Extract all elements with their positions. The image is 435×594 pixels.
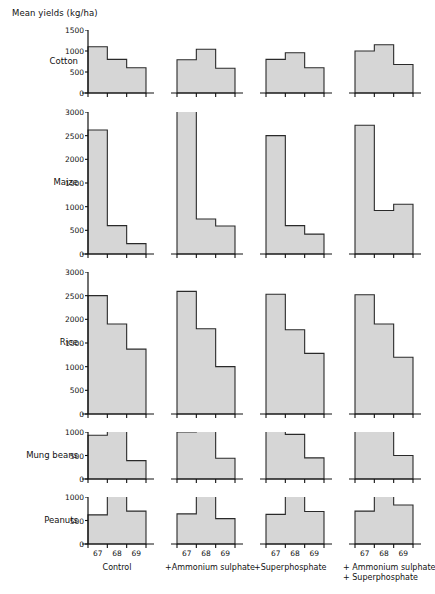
panel-maize-superphosphate [258,112,334,266]
x-tick-label-67: 67 [182,549,192,558]
y-axis-peanuts: 05001000 [50,497,84,544]
panel-cotton-superphosphate [258,30,334,105]
treatment-label-line: + Superphosphate [343,573,435,583]
bar-series [355,45,413,93]
treatment-label-line: + Ammonium sulphate [343,563,435,573]
panel-rice-ammonium-sulphate-superphosphate [347,272,423,426]
treatment-label-control: Control [103,563,132,573]
y-axis-rice: 050010001500200025003000 [50,272,84,414]
panel-rice-ammonium-sulphate [169,272,245,426]
panel-peanuts-ammonium-sulphate-superphosphate [347,497,423,556]
panel-peanuts-superphosphate [258,497,334,556]
bar-series [177,291,235,414]
x-tick-label-68: 68 [379,549,389,558]
bar-series [88,497,146,544]
bar-series [177,497,235,544]
treatment-label-ammonium-sulphate-superphosphate: + Ammonium sulphate+ Superphosphate [343,563,435,583]
treatment-label-line: Control [103,563,132,573]
panel-maize-ammonium-sulphate-superphosphate [347,112,423,266]
bar-series [88,296,146,414]
panel-mung-beans-superphosphate [258,432,334,491]
treatment-label-line: +Ammonium sulphate [165,563,255,573]
panel-mung-beans-ammonium-sulphate [169,432,245,491]
x-tick-label-67: 67 [93,549,103,558]
bar-series [355,432,413,479]
bar-series [88,432,146,479]
bar-series [355,497,413,544]
crop-row-maize: Maize050010001500200025003000 [0,112,423,254]
panel-cotton-ammonium-sulphate [169,30,245,105]
x-tick-label-68: 68 [201,549,211,558]
bar-series [177,432,235,479]
bar-series [177,49,235,93]
panel-mung-beans-control [80,432,156,491]
treatment-label-line: +Superphosphate [254,563,326,573]
panel-maize-control [80,112,156,266]
bar-series [266,136,324,254]
y-axis-cotton: 050010001500 [50,30,84,93]
panel-peanuts-control [80,497,156,556]
panel-rice-superphosphate [258,272,334,426]
panel-peanuts-ammonium-sulphate [169,497,245,556]
crop-row-peanuts: Peanuts05001000 [0,497,423,544]
panel-rice-control [80,272,156,426]
y-axis-maize: 050010001500200025003000 [50,112,84,254]
treatment-label-ammonium-sulphate: +Ammonium sulphate [165,563,255,573]
chart-title: Mean yields (kg/ha) [12,8,98,18]
x-tick-label-69: 69 [221,549,231,558]
crop-row-mung-beans: Mung beans05001000 [0,432,423,479]
bar-series [355,295,413,414]
bar-series [266,294,324,414]
x-tick-label-69: 69 [310,549,320,558]
x-tick-label-68: 68 [112,549,122,558]
bar-series [355,125,413,254]
bar-series [88,47,146,93]
bar-series [266,53,324,93]
panel-cotton-ammonium-sulphate-superphosphate [347,30,423,105]
x-tick-label-69: 69 [132,549,142,558]
treatment-label-superphosphate: +Superphosphate [254,563,326,573]
crop-row-cotton: Cotton050010001500 [0,30,423,93]
x-tick-label-69: 69 [399,549,409,558]
y-axis-mung-beans: 05001000 [50,432,84,479]
bar-series [266,432,324,479]
bar-series [88,130,146,254]
panel-cotton-control [80,30,156,105]
x-tick-label-68: 68 [290,549,300,558]
x-tick-label-67: 67 [360,549,370,558]
bar-series [266,497,324,544]
x-tick-label-67: 67 [271,549,281,558]
panel-maize-ammonium-sulphate [169,112,245,266]
bar-series [177,112,235,254]
panel-mung-beans-ammonium-sulphate-superphosphate [347,432,423,491]
crop-row-rice: Rice050010001500200025003000 [0,272,423,414]
